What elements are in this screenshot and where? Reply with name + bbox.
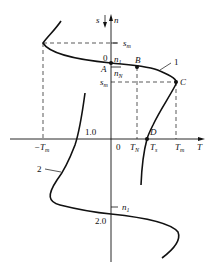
origin-bottom-label: 0	[116, 143, 121, 152]
t-axis-arrow	[198, 137, 205, 141]
n1-bottom-label: n1	[122, 203, 130, 213]
curve-1	[43, 21, 176, 139]
tn-label: TN	[130, 143, 139, 153]
curve-2-leader	[45, 169, 61, 172]
guide-lines	[43, 43, 176, 139]
curve-1-tail	[141, 139, 147, 185]
point-d-marker	[145, 137, 149, 141]
s-axis-label: s	[96, 16, 100, 25]
curve-1-label: 1	[174, 58, 179, 67]
point-b-label: B	[135, 56, 141, 65]
t-axis-label: T	[197, 143, 202, 152]
nN-label: nN	[114, 69, 123, 79]
point-c-label: C	[180, 78, 186, 87]
point-c-marker	[174, 80, 178, 84]
curve-2-label: 2	[37, 165, 42, 174]
s-1-0-label: 1.0	[85, 128, 96, 137]
curve-2	[50, 93, 179, 258]
curve-1-leader	[160, 63, 171, 70]
origin-top-label: 0	[103, 54, 108, 63]
ts-label: Ts	[150, 143, 157, 153]
sm-mid-label: sm	[100, 78, 108, 88]
s-2-0-label: 2.0	[95, 217, 106, 226]
n-axis-label: n	[114, 16, 119, 25]
n-axis-arrow	[109, 14, 113, 21]
point-a-label: A	[101, 65, 107, 74]
n1-top-label: n1	[114, 55, 122, 65]
sm-top-label: sm	[123, 39, 131, 49]
characteristic-diagram	[0, 0, 213, 279]
point-b-marker	[135, 65, 139, 69]
tm-label: Tm	[175, 143, 184, 153]
s-axis-arrow	[103, 22, 107, 28]
point-d-label: D	[150, 128, 157, 137]
neg-tm-label: −Tm	[34, 143, 49, 153]
point-a-marker	[109, 61, 113, 65]
